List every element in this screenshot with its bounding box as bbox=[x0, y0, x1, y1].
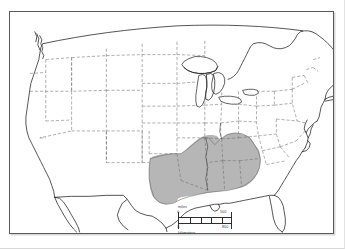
lake-erie bbox=[219, 96, 242, 104]
northeast-border bbox=[253, 31, 312, 49]
shaded-region-group bbox=[149, 133, 260, 204]
great-lakes-border bbox=[228, 44, 254, 80]
great-lakes-group bbox=[182, 57, 259, 108]
lake-superior bbox=[182, 57, 218, 74]
scale-bar-kilometers-max: 800 bbox=[222, 226, 228, 230]
scale-bar-tick-1 bbox=[190, 218, 191, 223]
map-neatline-frame bbox=[9, 11, 334, 234]
map-page: miles 0 500 0 800 kilometers bbox=[0, 0, 345, 249]
delaware-nj-coast bbox=[317, 99, 325, 121]
baja-california bbox=[55, 197, 77, 232]
northern-border-49th-parallel bbox=[43, 25, 303, 44]
scale-bar-tick-3 bbox=[211, 218, 212, 223]
pacific-coastline bbox=[26, 44, 55, 198]
lake-michigan bbox=[196, 74, 207, 107]
puget-sound-detail bbox=[40, 36, 44, 59]
scale-bar-miles-max: 500 bbox=[220, 211, 226, 215]
long-island bbox=[325, 95, 333, 99]
shaded-region-north-lobe bbox=[194, 135, 222, 152]
chesapeake-bay bbox=[305, 121, 317, 148]
lake-ontario bbox=[243, 89, 259, 95]
us-map-graphic bbox=[10, 12, 333, 233]
scale-bar-miles-label: miles bbox=[178, 206, 187, 210]
new-england-coast bbox=[312, 32, 333, 99]
florida-peninsula bbox=[274, 195, 285, 232]
scale-bar-kilometers-min: 0 bbox=[177, 226, 179, 230]
atlantic-coast-southeast bbox=[274, 148, 305, 196]
shaded-region-east-lobe bbox=[232, 135, 261, 189]
national-outline-group bbox=[26, 25, 333, 232]
scale-bar-tick-4 bbox=[222, 218, 223, 223]
scale-bar-kilometers-label: kilometers bbox=[178, 232, 195, 236]
map-canvas bbox=[10, 12, 333, 233]
scale-bar-graphic bbox=[178, 217, 232, 224]
scale-bar: miles 0 500 0 800 kilometers bbox=[176, 206, 244, 236]
scale-bar-tick-2 bbox=[201, 218, 202, 223]
